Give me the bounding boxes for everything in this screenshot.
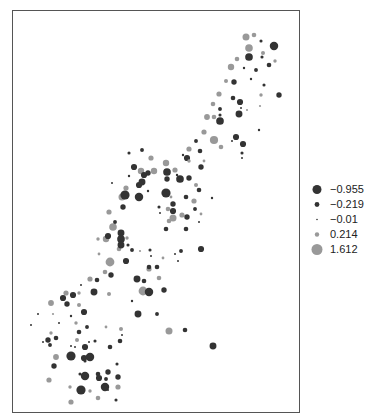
data-point bbox=[83, 359, 86, 362]
data-point bbox=[201, 129, 206, 134]
data-point bbox=[155, 312, 159, 316]
data-point bbox=[96, 237, 99, 240]
data-point bbox=[77, 303, 81, 307]
data-point bbox=[70, 292, 76, 298]
data-point bbox=[48, 343, 52, 347]
data-point bbox=[74, 346, 76, 348]
data-point bbox=[259, 105, 261, 107]
data-point bbox=[184, 214, 189, 219]
data-point bbox=[54, 336, 59, 341]
data-point bbox=[147, 190, 149, 192]
data-point bbox=[77, 330, 82, 335]
legend-item: 0.214 bbox=[308, 227, 376, 242]
data-point bbox=[119, 327, 123, 331]
data-point bbox=[212, 115, 217, 120]
data-point bbox=[231, 79, 236, 84]
data-point bbox=[147, 265, 152, 270]
plot-area bbox=[12, 10, 300, 413]
data-point bbox=[218, 107, 222, 111]
data-point bbox=[270, 42, 278, 50]
data-point bbox=[80, 284, 82, 286]
data-point bbox=[46, 377, 51, 382]
data-point bbox=[182, 154, 184, 156]
data-point bbox=[68, 399, 73, 404]
data-point bbox=[240, 151, 243, 154]
data-point bbox=[78, 372, 81, 375]
legend-label: −0.219 bbox=[330, 198, 364, 210]
data-point bbox=[52, 313, 54, 315]
data-point bbox=[184, 227, 189, 232]
data-point bbox=[164, 227, 169, 232]
data-point bbox=[172, 167, 177, 172]
data-point bbox=[210, 343, 217, 350]
data-point bbox=[184, 195, 189, 200]
data-point bbox=[107, 292, 111, 296]
data-point bbox=[258, 129, 260, 131]
data-point bbox=[194, 183, 198, 187]
legend-marker-icon bbox=[310, 182, 324, 197]
data-point bbox=[48, 300, 54, 306]
data-point bbox=[179, 212, 184, 217]
data-point bbox=[81, 372, 89, 380]
legend: −0.955 −0.219 −0.01 0.214 1.612 bbox=[308, 182, 376, 257]
data-point bbox=[115, 374, 120, 379]
data-point bbox=[139, 179, 146, 186]
data-point bbox=[155, 265, 160, 270]
data-point bbox=[93, 339, 96, 342]
data-point bbox=[176, 174, 178, 176]
data-point bbox=[276, 92, 281, 97]
data-point bbox=[58, 322, 60, 324]
legend-marker-icon bbox=[310, 197, 324, 212]
data-point bbox=[211, 102, 216, 107]
data-point bbox=[161, 287, 166, 292]
data-point bbox=[45, 337, 50, 342]
data-point bbox=[186, 146, 191, 151]
data-point bbox=[131, 300, 133, 302]
data-point bbox=[166, 207, 171, 212]
data-point bbox=[198, 164, 203, 169]
data-point bbox=[273, 59, 276, 62]
data-point bbox=[179, 249, 183, 253]
data-point bbox=[109, 223, 117, 231]
data-point bbox=[203, 160, 206, 163]
data-point bbox=[218, 113, 221, 116]
data-point bbox=[245, 53, 253, 61]
data-point bbox=[159, 212, 161, 214]
data-point bbox=[77, 291, 80, 294]
data-point bbox=[240, 107, 242, 109]
data-point bbox=[254, 68, 258, 72]
data-point bbox=[250, 78, 252, 80]
data-point bbox=[106, 258, 115, 267]
data-point bbox=[148, 248, 151, 251]
data-point bbox=[118, 242, 125, 249]
data-point bbox=[231, 96, 236, 101]
data-point bbox=[95, 278, 100, 283]
data-point bbox=[198, 221, 200, 223]
data-point bbox=[151, 168, 157, 174]
data-point bbox=[170, 201, 175, 206]
data-point bbox=[145, 288, 153, 296]
data-point bbox=[115, 384, 120, 389]
data-point bbox=[123, 258, 129, 264]
data-point bbox=[115, 362, 118, 365]
data-point bbox=[85, 325, 89, 329]
data-point bbox=[66, 351, 75, 360]
data-point bbox=[197, 188, 202, 193]
data-point bbox=[123, 185, 128, 190]
data-point bbox=[88, 389, 91, 392]
data-point bbox=[198, 246, 204, 252]
data-point bbox=[91, 289, 98, 296]
data-point bbox=[140, 148, 144, 152]
data-point bbox=[176, 175, 184, 183]
data-point bbox=[76, 385, 85, 394]
data-point bbox=[74, 321, 77, 324]
data-point bbox=[30, 324, 32, 326]
data-point bbox=[236, 111, 243, 118]
data-point bbox=[53, 354, 59, 360]
data-point bbox=[219, 145, 224, 150]
data-point bbox=[68, 385, 71, 388]
legend-item: −0.955 bbox=[308, 182, 376, 197]
data-point bbox=[260, 55, 263, 58]
data-point bbox=[81, 309, 87, 315]
data-point bbox=[96, 396, 101, 401]
